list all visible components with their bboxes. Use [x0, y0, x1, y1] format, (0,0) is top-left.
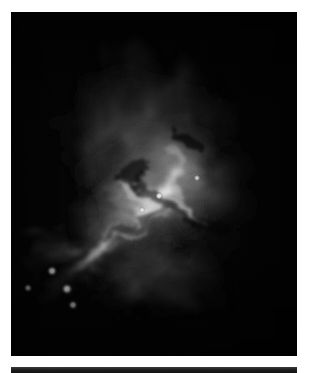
nebula-render	[11, 12, 297, 356]
next-panel-render	[11, 367, 297, 373]
film-grain	[11, 12, 297, 356]
next-panel-grain	[11, 367, 297, 373]
astronomical-nebula-image	[11, 12, 297, 356]
next-figure-panel-sliver	[11, 367, 297, 373]
page-canvas	[0, 0, 313, 373]
